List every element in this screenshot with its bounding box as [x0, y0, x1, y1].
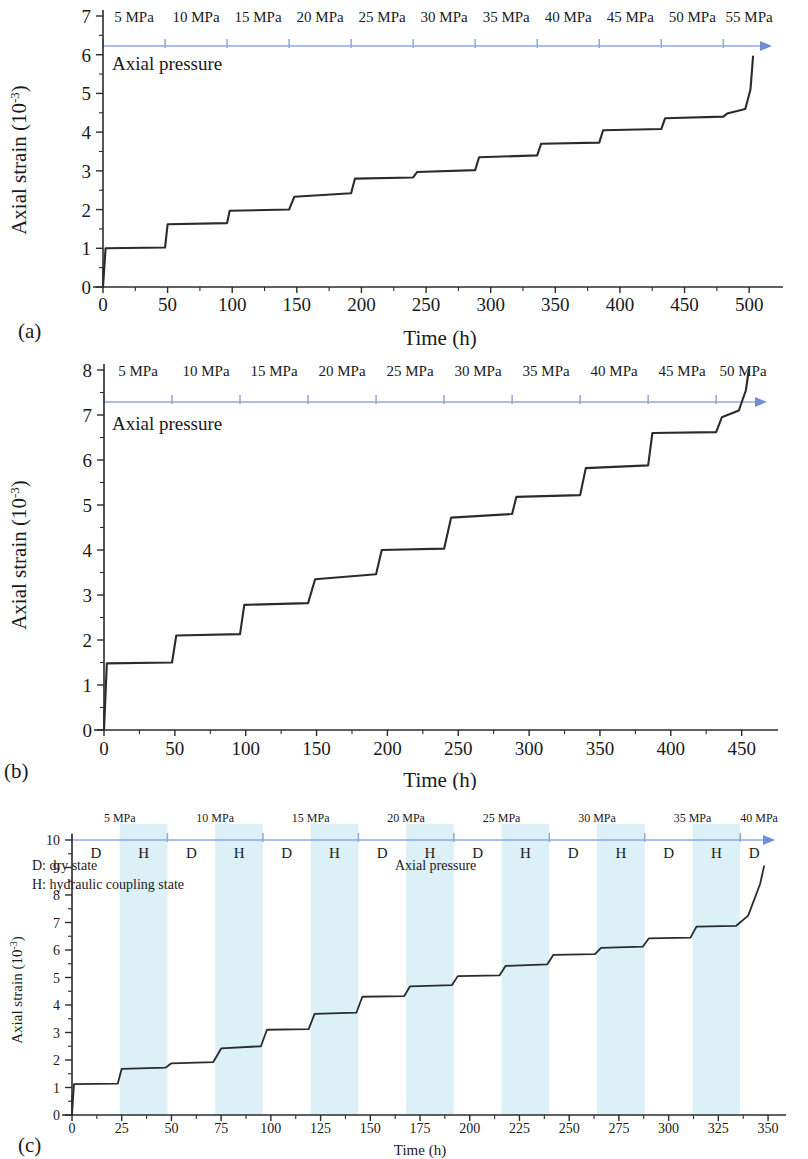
pressure-step-label: 40 MPa — [545, 9, 592, 25]
y-tick-label: 5 — [53, 971, 60, 986]
x-tick-label: 75 — [214, 1121, 228, 1136]
state-letter-h: H — [520, 845, 531, 861]
x-tick-label: 450 — [670, 294, 699, 315]
pressure-step-label: 50 MPa — [720, 363, 767, 379]
x-tick-label: 350 — [586, 738, 615, 759]
y-tick-label: 8 — [83, 360, 93, 381]
state-letter-d: D — [281, 845, 292, 861]
x-tick-label: 100 — [218, 294, 247, 315]
panel-a: 5 MPa10 MPa15 MPa20 MPa25 MPa30 MPa35 MP… — [0, 0, 808, 350]
x-tick-label: 325 — [708, 1121, 729, 1136]
legend-entry: D: dry state — [32, 858, 97, 873]
state-letter-d: D — [186, 845, 197, 861]
x-tick-label: 125 — [310, 1121, 331, 1136]
creep-curve — [103, 57, 753, 287]
axial-pressure-label: Axial pressure — [112, 53, 222, 74]
state-letter-d: D — [472, 845, 483, 861]
x-tick-label: 100 — [260, 1121, 281, 1136]
x-tick-label: 200 — [459, 1121, 480, 1136]
pressure-step-label: 30 MPa — [578, 811, 616, 825]
chart-c-plot: 5 MPa10 MPa15 MPa20 MPa25 MPa30 MPa35 MP… — [0, 790, 808, 1159]
y-tick-label: 7 — [53, 916, 60, 931]
state-letter-h: H — [711, 845, 722, 861]
x-tick-label: 0 — [98, 294, 108, 315]
hydraulic-band — [120, 824, 168, 1115]
state-letter-d: D — [663, 845, 674, 861]
pressure-step-label: 40 MPa — [591, 363, 638, 379]
pressure-axis-arrow-icon — [763, 835, 775, 845]
pressure-step-label: 15 MPa — [250, 363, 297, 379]
x-tick-label: 50 — [164, 1121, 178, 1136]
pressure-step-label: 45 MPa — [607, 9, 654, 25]
y-tick-label: 6 — [53, 943, 60, 958]
pressure-step-label: 30 MPa — [421, 9, 468, 25]
y-axis-title: Axial strain (10-3) — [8, 936, 27, 1044]
pressure-step-label: 5 MPa — [114, 9, 154, 25]
x-tick-label: 0 — [69, 1121, 76, 1136]
x-tick-label: 150 — [360, 1121, 381, 1136]
pressure-step-label: 20 MPa — [297, 9, 344, 25]
panel-c: 5 MPa10 MPa15 MPa20 MPa25 MPa30 MPa35 MP… — [0, 790, 808, 1159]
x-tick-label: 175 — [410, 1121, 431, 1136]
x-axis-title: Time (h) — [403, 768, 476, 790]
x-tick-label: 225 — [509, 1121, 530, 1136]
y-tick-label: 7 — [83, 405, 93, 426]
pressure-step-label: 15 MPa — [235, 9, 282, 25]
panel-label: (b) — [4, 759, 29, 783]
pressure-step-label: 15 MPa — [292, 811, 330, 825]
y-tick-label: 4 — [82, 122, 92, 143]
y-tick-label: 1 — [53, 1081, 60, 1096]
pressure-step-label: 30 MPa — [455, 363, 502, 379]
chart-b-plot: 5 MPa10 MPa15 MPa20 MPa25 MPa30 MPa35 MP… — [0, 350, 808, 790]
y-tick-label: 2 — [83, 630, 93, 651]
y-tick-label: 3 — [83, 585, 93, 606]
y-tick-label: 0 — [82, 277, 92, 298]
x-tick-label: 150 — [302, 738, 331, 759]
y-tick-label: 10 — [46, 833, 60, 848]
state-letter-h: H — [329, 845, 340, 861]
panel-label: (a) — [18, 319, 41, 343]
x-tick-label: 400 — [657, 738, 686, 759]
pressure-step-label: 5 MPa — [104, 811, 136, 825]
pressure-step-label: 25 MPa — [359, 9, 406, 25]
x-tick-label: 300 — [515, 738, 544, 759]
pressure-step-label: 10 MPa — [182, 363, 229, 379]
state-letter-d: D — [749, 845, 760, 861]
y-tick-label: 0 — [83, 720, 93, 741]
axial-pressure-label: Axial pressure — [395, 858, 476, 873]
pressure-axis-arrow-icon — [760, 41, 772, 51]
x-tick-label: 300 — [658, 1121, 679, 1136]
x-tick-label: 50 — [158, 294, 177, 315]
y-tick-label: 4 — [83, 540, 93, 561]
x-tick-label: 250 — [412, 294, 441, 315]
x-tick-label: 50 — [165, 738, 184, 759]
pressure-step-label: 50 MPa — [669, 9, 716, 25]
pressure-step-label: 10 MPa — [196, 811, 234, 825]
hydraulic-band — [692, 824, 740, 1115]
y-tick-label: 2 — [82, 200, 92, 221]
pressure-step-label: 55 MPa — [726, 9, 773, 25]
hydraulic-band — [215, 824, 263, 1115]
state-letter-h: H — [234, 845, 245, 861]
pressure-step-label: 20 MPa — [387, 811, 425, 825]
y-tick-label: 6 — [83, 450, 93, 471]
x-axis-title: Time (h) — [403, 326, 476, 350]
x-tick-label: 0 — [99, 738, 109, 759]
x-tick-label: 100 — [231, 738, 260, 759]
y-tick-label: 9 — [53, 861, 60, 876]
x-tick-label: 350 — [541, 294, 570, 315]
pressure-step-label: 20 MPa — [319, 363, 366, 379]
x-axis-title: Time (h) — [394, 1142, 446, 1159]
y-tick-label: 4 — [53, 998, 60, 1013]
x-tick-label: 300 — [476, 294, 505, 315]
y-tick-label: 5 — [82, 83, 92, 104]
x-tick-label: 150 — [283, 294, 312, 315]
x-tick-label: 200 — [373, 738, 402, 759]
pressure-step-label: 45 MPa — [659, 363, 706, 379]
pressure-step-label: 25 MPa — [387, 363, 434, 379]
y-tick-label: 2 — [53, 1053, 60, 1068]
pressure-step-label: 35 MPa — [674, 811, 712, 825]
x-tick-label: 275 — [608, 1121, 629, 1136]
y-tick-label: 0 — [53, 1108, 60, 1123]
y-tick-label: 5 — [83, 495, 93, 516]
